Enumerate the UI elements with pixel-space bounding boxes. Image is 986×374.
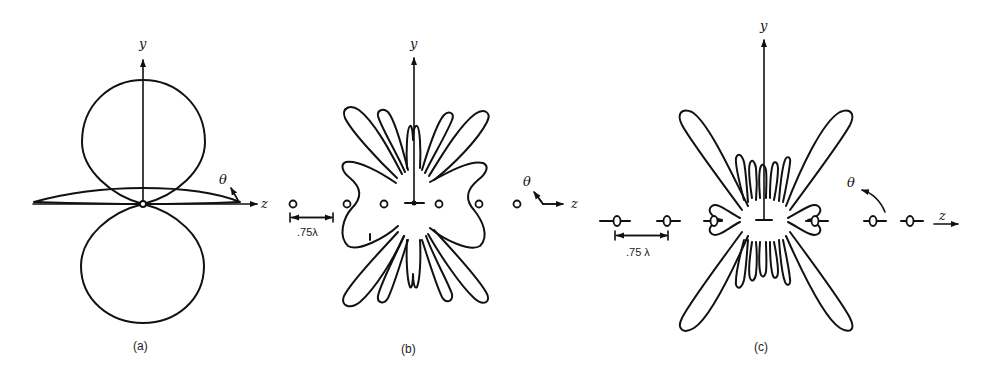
antenna-pattern-figure: y z θ (a) y [0, 0, 986, 374]
spacing-label-c: .75 λ [626, 246, 650, 258]
z-label-a: z [260, 196, 268, 211]
z-label-c: z [938, 208, 946, 223]
lobe-c-upper-4 [770, 162, 778, 200]
center-element-b [412, 201, 417, 206]
element-b-3 [381, 201, 388, 208]
theta-arrow-b [534, 192, 543, 204]
lobe-b-upper-outer-right [429, 111, 489, 180]
element-c-5 [812, 216, 819, 226]
lobe-c-lower-1 [736, 240, 748, 288]
lobe-b-bottom-center [407, 240, 421, 288]
z-label-b: z [570, 196, 578, 211]
element-b-2 [344, 201, 351, 208]
theta-label-a: θ [219, 172, 227, 187]
theta-label-b: θ [523, 174, 531, 189]
lobe-b-upper-outer-left [344, 107, 402, 178]
lobe-b-lower-inner-left [378, 236, 408, 302]
lobe-c-upper-2 [749, 161, 757, 200]
panel-a: y z θ (a) [33, 36, 268, 353]
lobe-c-upper-1 [736, 155, 748, 202]
lobe-c-upper-5 [779, 157, 790, 202]
y-label-b: y [409, 36, 418, 51]
caption-a: (a) [133, 339, 148, 353]
element-c-1 [614, 216, 621, 226]
lobe-b-lower-outer-right [428, 230, 488, 303]
element-b-6 [476, 201, 483, 208]
element-b-1 [290, 201, 297, 208]
element-c-2 [664, 216, 671, 226]
y-label-a: y [138, 36, 147, 51]
panel-c: y [600, 18, 958, 354]
lobe-c-big-lower-left [680, 232, 748, 331]
caption-b: (b) [401, 342, 416, 356]
panel-b: y .75λ [290, 36, 579, 356]
lobe-c-lower-2 [749, 242, 757, 281]
theta-label-c: θ [847, 175, 855, 190]
spacing-label-b: .75λ [297, 226, 318, 238]
lobe-c-lower-5 [779, 240, 790, 285]
element-c-6 [870, 216, 877, 226]
lobe-c-upper-3 [759, 165, 766, 198]
lower-lobe-a [81, 204, 204, 323]
element-b-7 [514, 201, 521, 208]
element-a [140, 201, 146, 207]
lobe-c-big-upper-right [786, 111, 852, 210]
element-c-3 [711, 216, 718, 226]
lobe-b-lower-outer-left [343, 232, 404, 306]
y-label-c: y [759, 18, 768, 33]
caption-c: (c) [754, 340, 768, 354]
lobe-c-lower-4 [770, 242, 778, 278]
lobe-c-big-upper-left [680, 111, 748, 210]
lobe-c-big-lower-right [786, 232, 852, 331]
element-c-7 [907, 216, 914, 226]
element-b-5 [436, 201, 443, 208]
theta-arrow-c [862, 190, 885, 212]
lobe-c-lower-3 [759, 242, 766, 276]
